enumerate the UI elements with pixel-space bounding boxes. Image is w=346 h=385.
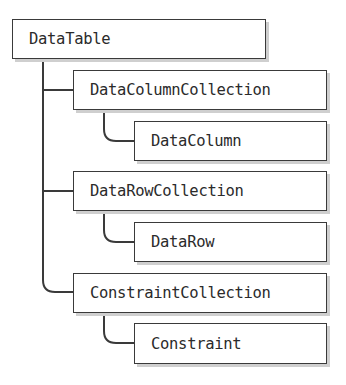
node-label: DataTable: [29, 30, 110, 48]
branch-to-constraint: [104, 312, 134, 343]
class-hierarchy-diagram: DataTable DataColumnCollection DataColum…: [0, 0, 346, 385]
node-label: DataRowCollection: [90, 182, 244, 200]
node-label: Constraint: [151, 335, 241, 353]
node-datacolumn: DataColumn: [134, 121, 327, 161]
trunk-to-datarowcollection: [43, 90, 73, 191]
branch-to-datacolumn: [104, 110, 134, 141]
node-constraint: Constraint: [134, 323, 327, 364]
branch-to-datarow: [104, 210, 134, 242]
trunk-to-datacolumncollection: [43, 59, 73, 90]
node-datarow: DataRow: [134, 222, 327, 262]
node-datatable: DataTable: [12, 19, 266, 59]
node-label: DataRow: [151, 233, 214, 251]
node-label: ConstraintCollection: [90, 284, 271, 302]
node-datacolumncollection: DataColumnCollection: [73, 70, 327, 110]
node-constraintcollection: ConstraintCollection: [73, 273, 327, 313]
node-label: DataColumn: [151, 132, 241, 150]
trunk-to-constraintcollection: [43, 191, 73, 292]
node-datarowcollection: DataRowCollection: [73, 171, 327, 211]
node-label: DataColumnCollection: [90, 81, 271, 99]
